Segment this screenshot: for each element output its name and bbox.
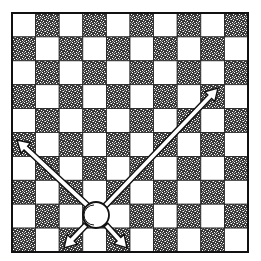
light-square: [12, 61, 36, 85]
light-square: [106, 13, 130, 37]
light-square: [154, 156, 178, 180]
dark-square: [154, 85, 178, 109]
light-square: [224, 85, 248, 109]
light-square: [59, 13, 83, 37]
light-square: [201, 13, 225, 37]
dark-square: [201, 37, 225, 61]
dark-square: [59, 133, 83, 157]
light-square: [130, 133, 154, 157]
dark-square: [154, 37, 178, 61]
light-square: [106, 61, 130, 85]
light-square: [83, 133, 107, 157]
dark-square: [130, 61, 154, 85]
dark-square: [130, 13, 154, 37]
dark-square: [177, 61, 201, 85]
light-square: [106, 109, 130, 133]
dark-square: [130, 109, 154, 133]
light-square: [224, 37, 248, 61]
dark-square: [83, 61, 107, 85]
white-draughts-piece: [83, 202, 109, 228]
dark-square: [36, 204, 60, 228]
light-square: [154, 109, 178, 133]
light-square: [59, 109, 83, 133]
dark-square: [12, 37, 36, 61]
board-squares: [12, 13, 248, 252]
light-square: [201, 109, 225, 133]
dark-square: [224, 156, 248, 180]
dark-square: [177, 13, 201, 37]
light-square: [36, 228, 60, 252]
dark-square: [130, 204, 154, 228]
light-square: [12, 204, 36, 228]
piece-body: [83, 202, 109, 228]
light-square: [130, 228, 154, 252]
light-square: [36, 133, 60, 157]
light-square: [36, 37, 60, 61]
dark-square: [177, 156, 201, 180]
dark-square: [59, 85, 83, 109]
light-square: [201, 204, 225, 228]
dark-square: [224, 204, 248, 228]
light-square: [154, 61, 178, 85]
dark-square: [12, 180, 36, 204]
dark-square: [83, 156, 107, 180]
light-square: [201, 156, 225, 180]
dark-square: [106, 85, 130, 109]
light-square: [224, 180, 248, 204]
dark-square: [106, 37, 130, 61]
light-square: [130, 37, 154, 61]
light-square: [83, 85, 107, 109]
dark-square: [201, 228, 225, 252]
dark-square: [83, 13, 107, 37]
dark-square: [36, 13, 60, 37]
dark-square: [83, 109, 107, 133]
dark-square: [12, 228, 36, 252]
checkerboard-diagram: [0, 0, 261, 261]
light-square: [177, 180, 201, 204]
dark-square: [201, 180, 225, 204]
dark-square: [36, 109, 60, 133]
board-canvas: [0, 0, 261, 261]
dark-square: [154, 180, 178, 204]
light-square: [154, 204, 178, 228]
light-square: [83, 37, 107, 61]
dark-square: [154, 228, 178, 252]
light-square: [130, 85, 154, 109]
light-square: [36, 85, 60, 109]
light-square: [36, 180, 60, 204]
light-square: [177, 37, 201, 61]
dark-square: [224, 13, 248, 37]
light-square: [130, 180, 154, 204]
dark-square: [106, 133, 130, 157]
light-square: [12, 13, 36, 37]
dark-square: [224, 109, 248, 133]
dark-square: [59, 37, 83, 61]
light-square: [224, 133, 248, 157]
light-square: [83, 228, 107, 252]
light-square: [59, 61, 83, 85]
light-square: [224, 228, 248, 252]
light-square: [177, 228, 201, 252]
light-square: [12, 156, 36, 180]
light-square: [154, 13, 178, 37]
dark-square: [201, 133, 225, 157]
light-square: [177, 133, 201, 157]
light-square: [59, 204, 83, 228]
dark-square: [12, 85, 36, 109]
dark-square: [36, 61, 60, 85]
light-square: [12, 109, 36, 133]
dark-square: [177, 204, 201, 228]
dark-square: [224, 61, 248, 85]
light-square: [106, 156, 130, 180]
light-square: [201, 61, 225, 85]
light-square: [59, 156, 83, 180]
